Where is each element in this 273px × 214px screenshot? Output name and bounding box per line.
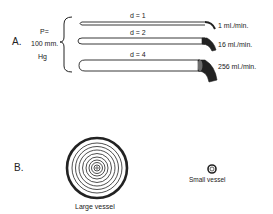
small-vessel-label: Small vessel [189, 177, 225, 184]
large-vessel-icon [67, 138, 127, 198]
tube-d4-diameter-label: d = 4 [130, 51, 146, 58]
panel-b-label: B. [14, 163, 23, 173]
large-vessel-label: Large vessel [75, 203, 115, 210]
tube-d2 [78, 38, 216, 51]
tube-d1-diameter-label: d = 1 [130, 12, 146, 19]
panel-a-label: A. [12, 37, 21, 47]
pressure-label-line3: Hg [38, 53, 47, 60]
tube-d1-flow-label: 1 ml./min. [218, 22, 248, 29]
small-vessel-icon [208, 165, 216, 173]
tube-d1 [80, 22, 215, 29]
pressure-label-line2: 100 mm. [31, 40, 58, 47]
pressure-label-line1: P= [40, 28, 49, 35]
tube-d4-flow-label: 256 ml./min. [218, 63, 256, 70]
tube-d4 [79, 60, 217, 82]
pressure-brace [60, 17, 72, 72]
tube-d2-diameter-label: d = 2 [130, 29, 146, 36]
poiseuille-diagram: A. P= 100 mm. Hg d = 1 d = 2 d = 4 1 ml.… [0, 0, 273, 214]
tube-d2-flow-label: 16 ml./min. [218, 41, 252, 48]
